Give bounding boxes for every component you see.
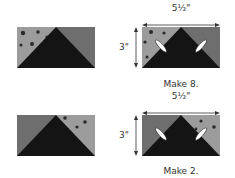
width-label: 5½" [142,3,220,13]
width-label: 5½" [142,91,220,101]
double-arrow-vertical-icon [132,27,140,68]
height-label: 3" [119,42,129,52]
flying-geese-unit-row1-right [142,27,220,68]
double-arrow-vertical-icon [132,115,140,156]
double-arrow-horizontal-icon [142,21,220,29]
width-dimension-row2: 5½" [142,102,220,114]
width-dimension-row1: 5½" [142,14,220,26]
double-arrow-horizontal-icon [142,109,220,117]
height-dimension-row1: 3" [119,27,141,68]
height-label: 3" [119,130,129,140]
quantity-caption-row1: Make 8. [150,79,212,89]
flying-geese-unit-row1-left [17,27,95,68]
height-dimension-row2: 3" [119,115,141,156]
flying-geese-unit-row2-left [17,115,95,156]
flying-geese-unit-row2-right [142,115,220,156]
quantity-caption-row2: Make 2. [150,166,212,176]
